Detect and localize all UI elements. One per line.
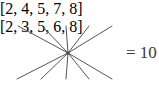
bottom-segment-0 xyxy=(17,53,68,79)
result-label: = 10 xyxy=(126,43,157,62)
bottom-segment-1 xyxy=(41,53,68,79)
bottom-segment-3 xyxy=(68,53,89,79)
top-list-label: [2, 4, 5, 7, 8] xyxy=(0,0,159,18)
bottom-segment-2 xyxy=(66,53,68,79)
bottom-segments-group xyxy=(17,53,112,79)
bottom-segment-4 xyxy=(68,53,112,79)
bottom-list-label: [2, 3, 5, 6, 8] xyxy=(0,18,159,36)
crossing-lines-figure: [2, 4, 5, 7, 8] [2, 3, 5, 6, 8] = 10 xyxy=(0,0,159,107)
convergence-point xyxy=(66,51,69,54)
